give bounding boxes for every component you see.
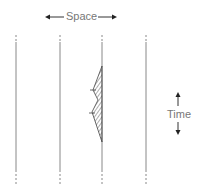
time-label: Time bbox=[167, 108, 191, 120]
trace-lines bbox=[16, 35, 146, 186]
wave-pulse bbox=[89, 66, 102, 142]
space-label: Space bbox=[66, 10, 97, 22]
space-time-diagram bbox=[0, 0, 206, 193]
